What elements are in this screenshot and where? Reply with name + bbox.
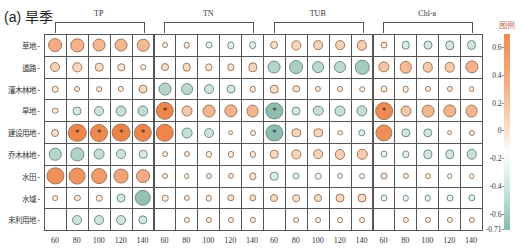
correlation-circle xyxy=(91,168,107,184)
legend-tick-label: 0.6- xyxy=(474,43,504,52)
row-label: 水田 - xyxy=(22,171,40,182)
significance-star: * xyxy=(119,129,124,138)
correlation-circle xyxy=(270,41,278,49)
correlation-circle xyxy=(447,173,453,179)
significance-star: * xyxy=(141,129,146,138)
correlation-circle xyxy=(293,173,300,180)
correlation-circle xyxy=(403,195,410,202)
correlation-circle xyxy=(246,104,259,117)
correlation-circle xyxy=(205,195,212,202)
correlation-circle xyxy=(94,106,104,116)
correlation-circle xyxy=(49,38,63,52)
correlation-circle xyxy=(313,106,324,117)
correlation-circle xyxy=(226,85,235,94)
correlation-circle xyxy=(335,105,346,116)
correlation-circle xyxy=(74,86,80,92)
correlation-circle xyxy=(140,64,146,70)
correlation-circle xyxy=(94,215,104,225)
correlation-circle xyxy=(116,215,126,225)
correlation-circle xyxy=(292,106,301,115)
x-tick-label: 80 xyxy=(393,236,417,245)
correlation-circle xyxy=(162,195,169,202)
correlation-circle xyxy=(250,130,256,136)
correlation-circle xyxy=(314,194,322,202)
group-label: Chl-a xyxy=(383,9,471,18)
matrix-cell xyxy=(154,208,177,231)
correlation-circle xyxy=(116,149,126,159)
correlation-circle xyxy=(469,86,475,92)
legend-tick-label: 0- xyxy=(474,126,504,135)
row-label: 灌木林地 - xyxy=(8,84,40,95)
x-tick-label: 100 xyxy=(415,236,439,245)
x-tick-label: 100 xyxy=(306,236,330,245)
row-label: 道路 - xyxy=(22,62,40,73)
chart-title: (a) 旱季 xyxy=(4,6,53,26)
correlation-circle xyxy=(337,217,343,223)
group-bracket xyxy=(274,22,364,33)
correlation-circle xyxy=(337,86,343,92)
x-tick-label: 80 xyxy=(284,236,308,245)
correlation-circle xyxy=(337,130,343,136)
legend-tick-label: 0.2- xyxy=(474,99,504,108)
x-tick-label: 60 xyxy=(152,236,176,245)
x-tick-label: 140 xyxy=(131,236,155,245)
correlation-circle xyxy=(139,85,148,94)
correlation-circle xyxy=(421,104,434,117)
correlation-circle xyxy=(139,150,148,159)
legend-title: 图例 xyxy=(499,19,515,30)
correlation-circle xyxy=(162,42,168,48)
correlation-circle xyxy=(270,172,279,181)
significance-star: * xyxy=(75,129,80,138)
row-label: 建设用地 - xyxy=(8,127,40,138)
x-tick-label: 100 xyxy=(196,236,220,245)
x-tick-label: 60 xyxy=(43,236,67,245)
matrix-cell xyxy=(263,208,286,231)
correlation-circle xyxy=(293,217,299,223)
correlation-circle xyxy=(205,42,212,49)
significance-star: * xyxy=(272,108,277,117)
correlation-circle xyxy=(159,83,172,96)
correlation-circle xyxy=(52,108,59,115)
correlation-circle xyxy=(270,85,279,94)
matrix-cell xyxy=(44,208,67,231)
correlation-circle xyxy=(403,86,410,93)
correlation-circle xyxy=(358,194,367,203)
legend-colorbar xyxy=(504,34,510,230)
legend-tick-label: -0.4- xyxy=(474,182,504,191)
correlation-circle xyxy=(184,173,190,179)
correlation-circle xyxy=(184,151,190,157)
correlation-circle xyxy=(380,151,387,158)
correlation-circle xyxy=(469,173,475,179)
correlation-circle xyxy=(96,86,102,92)
correlation-circle xyxy=(206,173,212,179)
group-label: TUB xyxy=(274,9,362,18)
correlation-circle xyxy=(69,168,86,185)
correlation-circle xyxy=(334,61,346,73)
correlation-circle xyxy=(53,195,59,201)
correlation-circle xyxy=(162,173,168,179)
row-label: 未利用地 - xyxy=(8,214,40,225)
correlation-circle xyxy=(249,42,257,50)
correlation-circle xyxy=(380,173,387,180)
significance-star: * xyxy=(272,129,277,138)
group-label: TN xyxy=(164,9,252,18)
correlation-circle xyxy=(380,42,387,49)
correlation-circle xyxy=(270,150,279,159)
correlation-circle xyxy=(181,127,192,138)
significance-star: * xyxy=(382,108,387,117)
correlation-circle xyxy=(72,215,82,225)
correlation-circle xyxy=(312,61,324,73)
correlation-circle xyxy=(117,194,126,203)
correlation-circle xyxy=(336,194,345,203)
correlation-circle xyxy=(447,130,453,136)
matrix-cell xyxy=(373,208,396,231)
correlation-circle xyxy=(446,195,453,202)
correlation-circle xyxy=(425,173,431,179)
correlation-circle xyxy=(115,39,128,52)
correlation-circle xyxy=(96,195,103,202)
correlation-circle xyxy=(51,129,59,137)
correlation-circle xyxy=(161,63,169,71)
legend-tick-label: -0.71- xyxy=(474,225,504,234)
correlation-circle xyxy=(402,41,411,50)
correlation-circle xyxy=(204,84,214,94)
